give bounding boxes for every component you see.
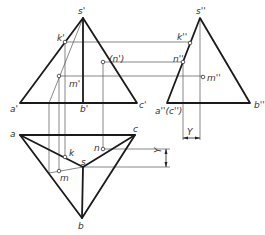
label-a-top: a	[10, 129, 16, 139]
label-ac-side: a''(c'')	[155, 106, 182, 116]
arrow-down-icon	[165, 162, 168, 167]
point-k-top	[63, 155, 67, 159]
top-edge-bs	[82, 167, 83, 218]
label-m-top: m	[60, 173, 69, 183]
label-m-front: m'	[69, 79, 80, 89]
top-outline	[20, 135, 135, 218]
side-view: s'' k'' n'' m'' a''(c'') b'' Y	[155, 6, 265, 140]
arrow-up-icon	[165, 149, 168, 154]
label-k-front: k'	[57, 33, 65, 43]
label-c-front: c'	[139, 100, 146, 110]
drawing-svg: s' k' m' (n') a' b' c' s'' k'' n'' m'' a…	[0, 0, 265, 235]
label-a-front: a'	[10, 104, 18, 114]
label-s-side: s''	[196, 6, 206, 16]
arrow-right-icon	[195, 137, 200, 140]
label-b-side: b''	[254, 100, 265, 110]
label-n-top: n	[94, 143, 100, 153]
point-m-front	[57, 74, 61, 78]
label-n-side: n''	[173, 54, 184, 64]
label-b-top: b	[78, 221, 84, 231]
dimension-label-top: Y	[153, 146, 163, 153]
label-s-front: s'	[78, 6, 85, 16]
label-s-top: s	[81, 157, 86, 167]
projection-drawing: s' k' m' (n') a' b' c' s'' k'' n'' m'' a…	[0, 0, 265, 235]
aux-line-s-m-front	[49, 18, 83, 103]
label-n-front: (n')	[109, 54, 124, 64]
dimension-label-side: Y	[187, 127, 194, 137]
top-view: a c s k m n b Y	[10, 124, 168, 231]
label-c-top: c	[133, 124, 138, 134]
top-edge-cs	[83, 135, 135, 167]
point-n-top	[101, 147, 105, 151]
point-k-side	[188, 41, 192, 45]
label-b-front: b'	[80, 104, 88, 114]
point-n-front	[101, 60, 105, 64]
dimension-y-side: Y	[183, 127, 200, 140]
label-m-side: m''	[207, 73, 221, 83]
label-k-top: k	[69, 148, 75, 158]
label-k-side: k''	[177, 32, 187, 42]
point-m-side	[201, 75, 205, 79]
front-view: s' k' m' (n') a' b' c'	[10, 6, 146, 114]
